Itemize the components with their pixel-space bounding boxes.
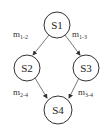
svg-text:S1: S1 [51,19,63,31]
edge-label-1-2: m1-2 [13,29,28,40]
svg-text:S3: S3 [80,62,92,74]
svg-text:S2: S2 [21,62,33,74]
edge-label-1-3: m1-3 [72,29,87,40]
node-s3: S3 [73,55,99,81]
edge-s2-s4 [35,78,47,98]
edge-label-2-4: m2-4 [13,87,28,98]
node-s4: S4 [44,96,72,124]
svg-text:S4: S4 [52,104,64,116]
node-s1: S1 [44,12,70,38]
state-diagram: m1-2 m1-3 m2-4 m3-4 S1 S2 S3 S4 [0,0,108,136]
edge-label-3-4: m3-4 [78,87,93,98]
edge-s1-s2 [33,35,49,55]
node-s2: S2 [14,55,40,81]
